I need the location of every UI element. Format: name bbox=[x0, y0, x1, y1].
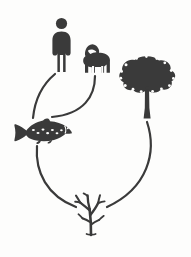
node-human bbox=[50, 16, 73, 74]
diagram-canvas bbox=[0, 0, 191, 257]
node-coral bbox=[73, 191, 110, 237]
ecosystem-cycle-diagram: Ecosystem cycle diagram bbox=[0, 0, 191, 257]
node-tree bbox=[118, 54, 176, 120]
node-gorilla bbox=[81, 42, 112, 75]
node-fish bbox=[12, 116, 74, 146]
